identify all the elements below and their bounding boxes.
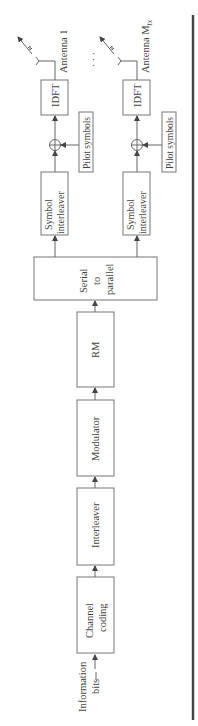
- svg-text:parallel: parallel: [104, 263, 115, 295]
- svg-text:IDFT: IDFT: [132, 83, 143, 107]
- channel-coding-block: Channel coding: [77, 577, 114, 653]
- svg-text:Antenna Mtx: Antenna Mtx: [140, 19, 154, 73]
- svg-text:Serial: Serial: [78, 268, 89, 293]
- branch-ellipsis: · · ·: [88, 52, 99, 67]
- symbol-interleaver-2: Symbol interleaver: [123, 172, 150, 235]
- svg-text:Interleaver: Interleaver: [90, 502, 101, 548]
- svg-text:to: to: [91, 277, 102, 285]
- svg-text:interleaver: interleaver: [137, 191, 148, 234]
- serial-to-parallel-block: Serial to parallel: [34, 257, 157, 300]
- svg-text:Channel: Channel: [84, 603, 95, 638]
- svg-text:Antenna 1: Antenna 1: [58, 30, 69, 73]
- antenna-2: Antenna Mtx: [100, 19, 154, 80]
- antenna-1: Antenna 1: [18, 30, 69, 80]
- adder-1: [50, 140, 61, 151]
- svg-text:Modulator: Modulator: [90, 416, 101, 461]
- svg-text:Symbol: Symbol: [125, 199, 136, 230]
- svg-text:Information: Information: [77, 661, 88, 712]
- interleaver-block: Interleaver: [77, 488, 114, 565]
- idft-1: IDFT: [41, 80, 68, 115]
- adder-2: [132, 140, 143, 151]
- svg-text:Pilot symbols: Pilot symbols: [165, 117, 175, 169]
- idft-2: IDFT: [123, 80, 150, 115]
- svg-text:coding: coding: [97, 603, 108, 632]
- pilot-symbols-2: Pilot symbols: [162, 112, 176, 172]
- rm-block: RM: [77, 312, 114, 387]
- input-label: Information bits: [77, 661, 101, 712]
- svg-text:Symbol: Symbol: [43, 199, 54, 230]
- svg-text:interleaver: interleaver: [55, 191, 66, 234]
- transmitter-diagram: Information bits Channel coding Interlea…: [0, 0, 198, 726]
- svg-text:bits: bits: [90, 679, 101, 694]
- svg-text:IDFT: IDFT: [50, 83, 61, 107]
- pilot-symbols-1: Pilot symbols: [79, 112, 93, 172]
- svg-text:Pilot symbols: Pilot symbols: [82, 117, 92, 169]
- symbol-interleaver-1: Symbol interleaver: [41, 172, 68, 235]
- svg-text:RM: RM: [90, 341, 101, 358]
- modulator-block: Modulator: [77, 400, 114, 476]
